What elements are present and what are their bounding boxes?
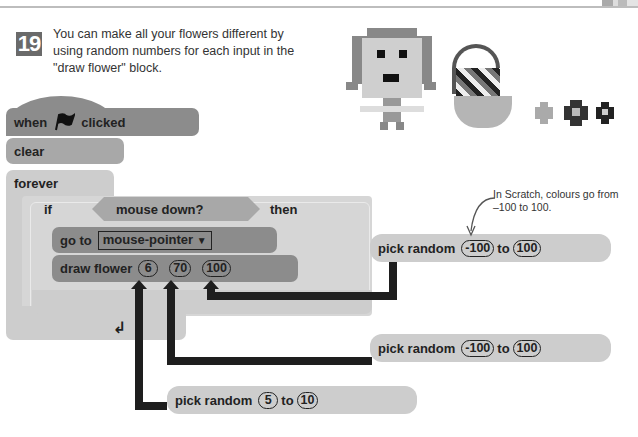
clear-label: clear bbox=[14, 144, 44, 159]
petal-count-input[interactable]: 6 bbox=[138, 260, 158, 277]
page-corner-decoration bbox=[602, 0, 638, 6]
annotation-pointer-arrow-icon bbox=[463, 195, 497, 239]
pick-random-size-block[interactable]: pick random -100 to 100 bbox=[370, 334, 611, 362]
then-label-wrap: then bbox=[262, 197, 297, 221]
go-to-label: go to bbox=[60, 233, 92, 248]
forever-label: forever bbox=[14, 176, 58, 191]
step-number: 19 bbox=[16, 32, 42, 56]
to-label: to bbox=[281, 393, 293, 408]
random-from-input[interactable]: 5 bbox=[258, 392, 278, 409]
pick-random-label: pick random bbox=[175, 393, 252, 408]
dropdown-value: mouse-pointer bbox=[103, 232, 193, 247]
forever-block-arm bbox=[6, 196, 22, 311]
then-label: then bbox=[270, 202, 297, 217]
random-from-input[interactable]: -100 bbox=[461, 240, 494, 257]
clear-block[interactable]: clear bbox=[6, 138, 124, 164]
green-flag-icon bbox=[53, 113, 75, 131]
go-to-block[interactable]: go to mouse-pointer ▼ bbox=[52, 227, 277, 253]
pick-random-petals-block[interactable]: pick random 5 to 10 bbox=[167, 386, 417, 414]
random-to-input[interactable]: 10 bbox=[297, 392, 319, 409]
size-input[interactable]: 70 bbox=[169, 260, 191, 277]
random-from-input[interactable]: -100 bbox=[461, 340, 494, 357]
hat-clicked-label: clicked bbox=[81, 115, 125, 130]
forever-label-wrap: forever bbox=[6, 170, 58, 196]
if-label-wrap: if bbox=[36, 197, 52, 221]
condition-label: mouse down? bbox=[116, 202, 203, 217]
random-to-input[interactable]: 100 bbox=[513, 340, 542, 357]
step-instruction: You can make all your flowers different … bbox=[53, 26, 303, 77]
top-rule bbox=[0, 6, 638, 8]
when-flag-clicked-block[interactable]: when clicked bbox=[6, 108, 199, 136]
to-label: to bbox=[497, 341, 509, 356]
colour-input[interactable]: 100 bbox=[202, 260, 231, 277]
to-label: to bbox=[497, 241, 509, 256]
pick-random-label: pick random bbox=[378, 341, 455, 356]
mouse-down-condition[interactable]: mouse down? bbox=[92, 197, 260, 221]
draw-flower-label: draw flower bbox=[60, 261, 132, 276]
dropdown-arrow-icon: ▼ bbox=[197, 235, 207, 246]
random-to-input[interactable]: 100 bbox=[513, 240, 542, 257]
pick-random-label: pick random bbox=[378, 241, 455, 256]
hat-when-label: when bbox=[14, 115, 47, 130]
go-to-target-dropdown[interactable]: mouse-pointer ▼ bbox=[98, 231, 212, 250]
draw-flower-block[interactable]: draw flower 6 70 100 bbox=[52, 255, 298, 282]
if-label: if bbox=[44, 202, 52, 217]
loop-arrow-icon: ↲ bbox=[113, 318, 126, 337]
colour-range-annotation: In Scratch, colours go from –100 to 100. bbox=[493, 188, 623, 214]
